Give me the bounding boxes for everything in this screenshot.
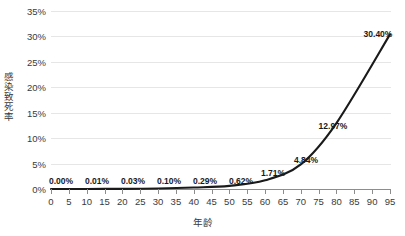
- x-tick-mark: [372, 189, 373, 194]
- x-tick-label: 60: [260, 197, 271, 207]
- chart-canvas: 感染致死率 35% 30% 25% 20% 15% 10% 5% 0% 0510…: [0, 0, 405, 236]
- x-tick-label: 35: [171, 197, 182, 207]
- x-tick-label: 65: [278, 197, 289, 207]
- x-tick-label: 70: [295, 197, 306, 207]
- x-tick-mark: [122, 189, 123, 194]
- x-axis-title: 年龄: [0, 215, 405, 229]
- x-tick-label: 50: [224, 197, 235, 207]
- x-tick-mark: [354, 189, 355, 194]
- x-tick-label: 10: [81, 197, 92, 207]
- x-tick-label: 80: [331, 197, 342, 207]
- x-tick-mark: [212, 189, 213, 194]
- x-tick-label: 25: [135, 197, 146, 207]
- point-label: 0.01%: [85, 177, 109, 186]
- x-tick-label: 95: [385, 197, 396, 207]
- x-tick-label: 30: [153, 197, 164, 207]
- x-tick-mark: [265, 189, 266, 194]
- point-label: 12.97%: [319, 122, 348, 131]
- x-tick-mark: [247, 189, 248, 194]
- point-label: 1.71%: [261, 169, 285, 178]
- point-label: 0.00%: [49, 177, 73, 186]
- x-tick-label: 55: [242, 197, 253, 207]
- point-label: 0.62%: [229, 177, 253, 186]
- x-tick-mark: [87, 189, 88, 194]
- series-curve: [0, 0, 405, 236]
- point-label: 30.40%: [364, 30, 393, 39]
- x-tick-mark: [229, 189, 230, 194]
- x-tick-label: 85: [349, 197, 360, 207]
- x-tick-mark: [390, 189, 391, 194]
- x-tick-label: 15: [99, 197, 110, 207]
- x-tick-mark: [319, 189, 320, 194]
- point-label: 0.03%: [121, 177, 145, 186]
- x-tick-label: 45: [206, 197, 217, 207]
- x-tick-label: 90: [367, 197, 378, 207]
- x-tick-label: 75: [313, 197, 324, 207]
- point-label: 0.29%: [193, 177, 217, 186]
- x-tick-mark: [105, 189, 106, 194]
- x-tick-mark: [194, 189, 195, 194]
- point-label: 4.84%: [294, 156, 318, 165]
- x-tick-label: 20: [117, 197, 128, 207]
- x-tick-mark: [51, 189, 52, 194]
- x-tick-mark: [69, 189, 70, 194]
- x-tick-label: 40: [188, 197, 199, 207]
- x-tick-label: 5: [66, 197, 71, 207]
- x-tick-label: 0: [48, 197, 53, 207]
- point-label: 0.10%: [157, 177, 181, 186]
- x-tick-mark: [283, 189, 284, 194]
- x-tick-mark: [176, 189, 177, 194]
- x-tick-mark: [158, 189, 159, 194]
- x-tick-mark: [301, 189, 302, 194]
- x-tick-mark: [336, 189, 337, 194]
- x-tick-mark: [140, 189, 141, 194]
